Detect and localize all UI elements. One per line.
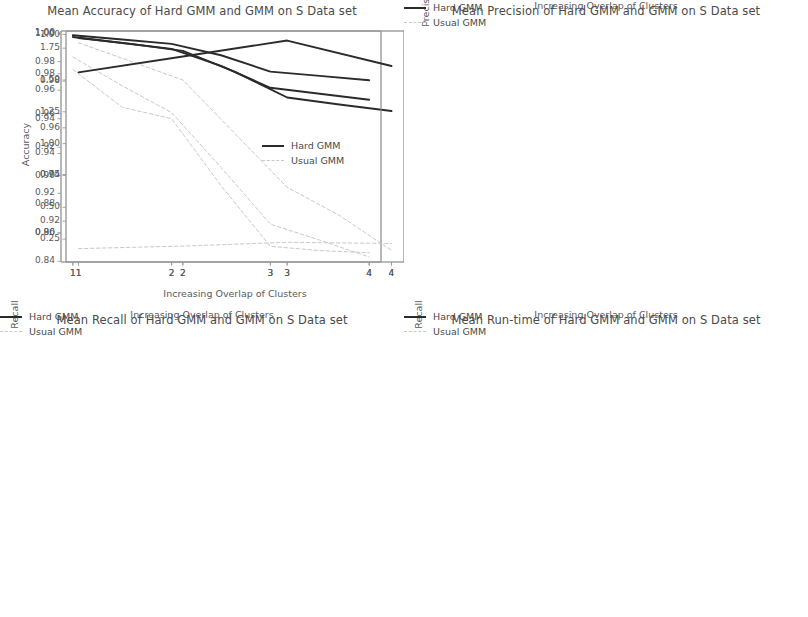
y-tick-label: 0.50 xyxy=(18,201,60,211)
y-tick-label: 0.94 xyxy=(13,147,55,157)
series-line-hard-gmm xyxy=(73,37,369,100)
y-tick-label: 0.92 xyxy=(18,215,60,225)
panel-precision: Mean Precision of Hard GMM and GMM on S … xyxy=(404,0,808,308)
legend-label-hard-gmm: Hard GMM xyxy=(291,141,341,151)
legend-item-usual-gmm: Usual GMM xyxy=(0,324,82,339)
legend-line-hard-gmm-icon xyxy=(404,316,426,318)
legend-item-hard-gmm: Hard GMM xyxy=(404,0,486,15)
legend-item-usual-gmm: Usual GMM xyxy=(404,15,486,30)
x-tick-label: 1 xyxy=(64,268,94,278)
legend-label-hard-gmm: Hard GMM xyxy=(433,312,483,322)
panel-recall-plot xyxy=(0,309,404,617)
legend-item-usual-gmm: Usual GMM xyxy=(404,324,486,339)
panel-recall: Mean Recall of Hard GMM and GMM on S Dat… xyxy=(0,309,404,617)
figure-multi-panel-line-charts: Mean Accuracy of Hard GMM and GMM on S D… xyxy=(0,0,808,617)
y-tick-label: 1.00 xyxy=(13,28,55,38)
legend-line-usual-gmm-icon xyxy=(0,331,22,332)
series-line-hard-gmm xyxy=(79,41,392,73)
y-tick-label: 0.96 xyxy=(13,84,55,94)
legend-line-hard-gmm-icon xyxy=(0,316,22,318)
y-tick-label: 1.50 xyxy=(18,74,60,84)
y-tick-label: 1.25 xyxy=(18,106,60,116)
legend-item-hard-gmm: Hard GMM xyxy=(0,309,82,324)
legend-label-usual-gmm: Usual GMM xyxy=(291,156,344,166)
legend-label-hard-gmm: Hard GMM xyxy=(433,3,483,13)
y-tick-label: 0.75 xyxy=(18,169,60,179)
y-tick-label: 0.25 xyxy=(18,233,60,243)
y-tick-label: 1.00 xyxy=(18,138,60,148)
panel-accuracy-legend: Hard GMM Usual GMM xyxy=(262,138,344,168)
y-tick-label: 0.92 xyxy=(13,187,55,197)
legend-line-usual-gmm-icon xyxy=(404,331,426,332)
panel-precision-plot xyxy=(404,0,808,308)
series-line-usual-gmm xyxy=(79,43,392,251)
legend-line-hard-gmm-icon xyxy=(404,7,426,9)
legend-label-usual-gmm: Usual GMM xyxy=(433,18,486,28)
x-tick-label: 3 xyxy=(272,268,302,278)
legend-item-usual-gmm: Usual GMM xyxy=(262,153,344,168)
legend-item-hard-gmm: Hard GMM xyxy=(404,309,486,324)
y-tick-label: 0.96 xyxy=(18,122,60,132)
panel-accuracy: Mean Accuracy of Hard GMM and GMM on S D… xyxy=(0,0,404,308)
panel-accuracy-xlabel: Increasing Overlap of Clusters xyxy=(33,288,437,299)
x-tick-label: 2 xyxy=(168,268,198,278)
panel-runtime-plot xyxy=(404,309,808,617)
panel-precision-legend: Hard GMM Usual GMM xyxy=(404,0,486,30)
legend-item-hard-gmm: Hard GMM xyxy=(262,138,344,153)
y-tick-label: 1.75 xyxy=(18,42,60,52)
panel-recall-legend: Hard GMM Usual GMM xyxy=(0,309,82,339)
series-line-usual-gmm xyxy=(79,242,392,248)
legend-line-usual-gmm-icon xyxy=(262,160,284,161)
legend-line-hard-gmm-icon xyxy=(262,145,284,147)
legend-label-usual-gmm: Usual GMM xyxy=(29,327,82,337)
x-tick-label: 4 xyxy=(376,268,406,278)
panel-runtime: Mean Run-time of Hard GMM and GMM on S D… xyxy=(404,309,808,617)
y-tick-label: 0.84 xyxy=(13,255,55,265)
legend-label-usual-gmm: Usual GMM xyxy=(433,327,486,337)
panel-runtime-legend: Hard GMM Usual GMM xyxy=(404,309,486,339)
y-tick-label: 0.98 xyxy=(13,56,55,66)
legend-label-hard-gmm: Hard GMM xyxy=(29,312,79,322)
legend-line-usual-gmm-icon xyxy=(404,22,426,23)
